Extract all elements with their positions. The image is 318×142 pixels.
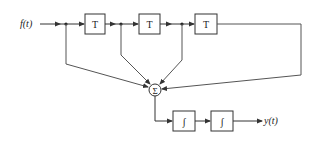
integrator-block-2: ∫ [211,111,233,131]
tap-line-3 [160,24,182,84]
delay-block-2: T [139,14,160,34]
svg-text:T: T [203,19,209,30]
feedback-line-3 [162,24,301,89]
output-label: y(t) [263,115,279,127]
integrator-block-1: ∫ [173,111,195,131]
svg-text:T: T [92,19,98,30]
summer-node: Σ [149,84,161,96]
tap-line-1 [66,24,148,87]
delay-block-1: T [85,14,105,34]
block-diagram: f(t) T T T Σ ∫ [0,0,318,142]
svg-text:Σ: Σ [152,86,157,96]
delay-block-3: T [195,14,217,34]
svg-text:T: T [146,19,152,30]
input-label: f(t) [20,18,33,30]
